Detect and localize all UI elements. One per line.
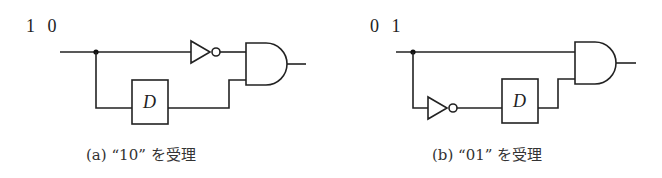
inverter-icon — [191, 41, 220, 63]
input-sequence-label-b: 0 1 — [370, 16, 405, 36]
diagram-canvas: 1 0 D (a) “10” を受理 0 1 — [0, 0, 662, 178]
figure-a: 1 0 D (a) “10” を受理 — [26, 16, 306, 164]
branch-wire-a — [96, 52, 132, 108]
and-gate-icon — [246, 43, 287, 85]
branch-wire-b — [413, 52, 428, 108]
figure-b: 0 1 D (b) “01” を受理 — [370, 16, 636, 164]
inverter-icon — [428, 97, 457, 119]
delay-to-and-wire-b — [538, 79, 575, 108]
caption-a: (a) “10” を受理 — [86, 146, 196, 164]
caption-b: (b) “01” を受理 — [432, 146, 542, 164]
delay-box-b: D — [502, 79, 538, 123]
delay-to-and-wire-a — [168, 80, 246, 108]
and-gate-icon — [575, 42, 616, 84]
delay-label-b: D — [512, 91, 526, 111]
input-sequence-label-a: 1 0 — [26, 16, 61, 36]
delay-label-a: D — [142, 92, 156, 112]
delay-box-a: D — [132, 80, 168, 124]
